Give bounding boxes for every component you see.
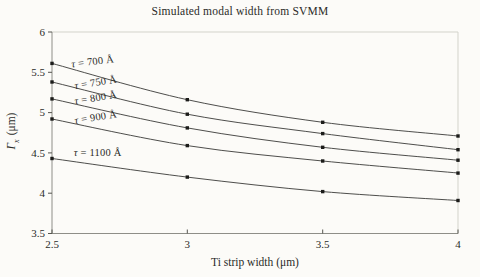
y-tick-label: 5.5 bbox=[31, 66, 45, 78]
x-tick-label: 3.5 bbox=[316, 238, 330, 250]
series-line bbox=[52, 159, 458, 201]
data-point-marker bbox=[50, 117, 53, 120]
data-point-marker bbox=[321, 132, 324, 135]
data-point-marker bbox=[186, 126, 189, 129]
data-point-marker bbox=[321, 190, 324, 193]
y-tick-label: 3.5 bbox=[31, 227, 45, 239]
data-point-marker bbox=[456, 159, 459, 162]
data-point-marker bbox=[50, 97, 53, 100]
series-label: τ = 700 Å bbox=[71, 53, 115, 69]
y-axis-label: Γx(μm) bbox=[5, 113, 20, 150]
series-label: τ = 750 Å bbox=[74, 74, 118, 92]
plot-area: 3.544.555.562.533.54τ = 700 Åτ = 750 Åτ … bbox=[0, 0, 480, 277]
x-tick-label: 4 bbox=[455, 238, 461, 250]
series-label: τ = 1100 Å bbox=[74, 147, 122, 158]
x-tick-label: 3 bbox=[185, 238, 191, 250]
y-tick-label: 4.5 bbox=[31, 147, 45, 159]
gamma-subscript: x bbox=[12, 139, 21, 143]
data-point-marker bbox=[456, 171, 459, 174]
chart-figure: Simulated modal width from SVMM 3.544.55… bbox=[0, 0, 480, 277]
x-axis-label: Ti strip width (μm) bbox=[52, 256, 458, 268]
data-point-marker bbox=[456, 148, 459, 151]
y-axis-unit: (μm) bbox=[5, 113, 17, 136]
data-point-marker bbox=[186, 98, 189, 101]
data-point-marker bbox=[186, 175, 189, 178]
data-point-marker bbox=[50, 80, 53, 83]
data-point-marker bbox=[321, 121, 324, 124]
x-tick-label: 2.5 bbox=[45, 238, 59, 250]
y-tick-label: 5 bbox=[40, 106, 46, 118]
data-point-marker bbox=[50, 157, 53, 160]
data-point-marker bbox=[456, 134, 459, 137]
data-point-marker bbox=[186, 113, 189, 116]
data-point-marker bbox=[321, 146, 324, 149]
data-point-marker bbox=[186, 144, 189, 147]
y-tick-label: 4 bbox=[40, 187, 46, 199]
gamma-symbol: Γ bbox=[5, 143, 17, 150]
data-point-marker bbox=[456, 199, 459, 202]
data-point-marker bbox=[50, 62, 53, 65]
data-point-marker bbox=[321, 159, 324, 162]
y-tick-label: 6 bbox=[40, 26, 46, 38]
series-line bbox=[52, 119, 458, 173]
series-label: τ = 800 Å bbox=[74, 89, 118, 107]
series-label: τ = 900 Å bbox=[74, 108, 118, 126]
